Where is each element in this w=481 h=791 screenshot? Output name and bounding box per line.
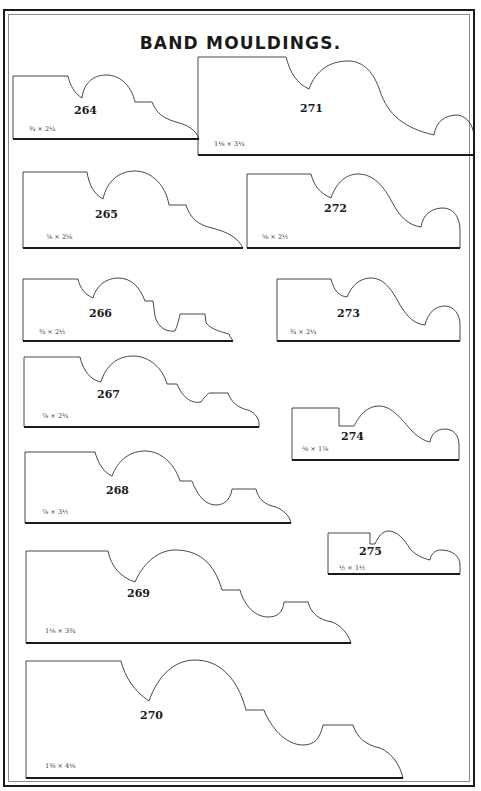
moulding-number-267: 267 — [97, 388, 120, 401]
moulding-number-264: 264 — [74, 104, 97, 117]
moulding-number-274: 274 — [341, 430, 364, 443]
moulding-size-264: ¾ × 2¼ — [29, 125, 55, 133]
moulding-number-266: 266 — [89, 307, 112, 320]
moulding-number-265: 265 — [95, 208, 118, 221]
profile-270 — [26, 660, 403, 778]
moulding-number-270: 270 — [140, 709, 163, 722]
moulding-size-267: ⅞ × 2¾ — [42, 412, 68, 420]
moulding-number-271: 271 — [300, 102, 323, 115]
moulding-number-268: 268 — [106, 484, 129, 497]
moulding-profiles-drawing — [0, 0, 481, 791]
moulding-size-265: ⅞ × 2⅝ — [46, 233, 72, 241]
moulding-size-274: ⅝ × 1⅞ — [302, 445, 328, 453]
moulding-size-266: ¾ × 2½ — [39, 328, 65, 336]
moulding-number-269: 269 — [127, 587, 150, 600]
moulding-size-268: ⅞ × 3½ — [42, 508, 68, 516]
moulding-number-273: 273 — [337, 307, 360, 320]
moulding-size-273: ¾ × 2¼ — [290, 328, 316, 336]
moulding-size-272: ⅝ × 2½ — [262, 233, 288, 241]
moulding-size-271: 1⅛ × 3¼ — [214, 140, 244, 148]
moulding-number-275: 275 — [359, 545, 382, 558]
moulding-size-270: 1⅜ × 4⅛ — [45, 762, 75, 770]
moulding-size-269: 1⅛ × 3¾ — [45, 627, 75, 635]
moulding-number-272: 272 — [324, 202, 347, 215]
moulding-size-275: ½ × 1½ — [339, 564, 365, 572]
